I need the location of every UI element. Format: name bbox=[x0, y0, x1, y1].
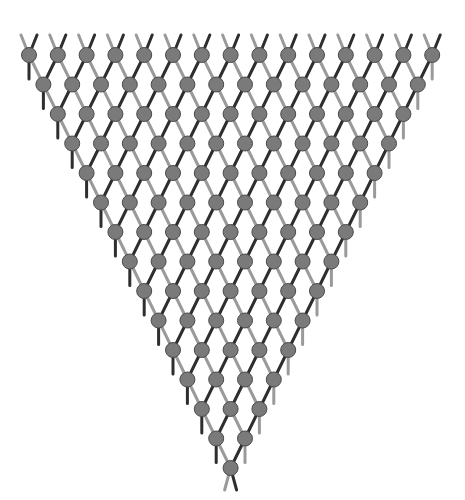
lattice-node bbox=[281, 48, 296, 63]
lattice-node bbox=[281, 166, 296, 181]
lattice-node bbox=[310, 225, 325, 240]
lattice-node bbox=[252, 107, 267, 122]
lattice-node bbox=[310, 107, 325, 122]
node-layer bbox=[22, 48, 440, 476]
lattice-node bbox=[122, 136, 137, 151]
lattice-node bbox=[209, 372, 224, 387]
lattice-node bbox=[65, 77, 80, 92]
lattice-node bbox=[252, 48, 267, 63]
lattice-node bbox=[223, 225, 238, 240]
lattice-node bbox=[137, 225, 152, 240]
lattice-node bbox=[281, 284, 296, 299]
lattice-node bbox=[338, 166, 353, 181]
lattice-node bbox=[137, 107, 152, 122]
lattice-node bbox=[382, 136, 397, 151]
lattice-node bbox=[151, 313, 166, 328]
lattice-node bbox=[367, 48, 382, 63]
lattice-node bbox=[252, 402, 267, 417]
lattice-node bbox=[180, 372, 195, 387]
lattice-node bbox=[22, 48, 37, 63]
lattice-node bbox=[180, 254, 195, 269]
lattice-node bbox=[166, 48, 181, 63]
lattice-node bbox=[266, 313, 281, 328]
lattice-node bbox=[295, 77, 310, 92]
lattice-node bbox=[180, 195, 195, 210]
lattice-node bbox=[166, 225, 181, 240]
lattice-node bbox=[194, 107, 209, 122]
lattice-node bbox=[338, 225, 353, 240]
lattice-node bbox=[223, 461, 238, 476]
lattice-node bbox=[367, 107, 382, 122]
lattice-node bbox=[137, 48, 152, 63]
lattice-node bbox=[122, 77, 137, 92]
lattice-node bbox=[252, 225, 267, 240]
lattice-node bbox=[166, 107, 181, 122]
lattice-node bbox=[209, 431, 224, 446]
lattice-node bbox=[122, 254, 137, 269]
lattice-node bbox=[166, 343, 181, 358]
lattice-node bbox=[367, 166, 382, 181]
lattice-node bbox=[50, 48, 65, 63]
lattice-node bbox=[166, 166, 181, 181]
lattice-node bbox=[266, 136, 281, 151]
lattice-node bbox=[382, 77, 397, 92]
lattice-node bbox=[238, 313, 253, 328]
lattice-node bbox=[223, 107, 238, 122]
lattice-node bbox=[324, 195, 339, 210]
lattice-node bbox=[209, 136, 224, 151]
lattice-node bbox=[353, 195, 368, 210]
lattice-node bbox=[252, 166, 267, 181]
lattice-node bbox=[310, 48, 325, 63]
lattice-node bbox=[338, 48, 353, 63]
lattice-canvas bbox=[0, 0, 465, 500]
lattice-node bbox=[223, 284, 238, 299]
lattice-node bbox=[410, 77, 425, 92]
lattice-node bbox=[295, 254, 310, 269]
lattice-node bbox=[151, 77, 166, 92]
lattice-node bbox=[338, 107, 353, 122]
lattice-node bbox=[209, 77, 224, 92]
lattice-node bbox=[194, 343, 209, 358]
lattice-node bbox=[324, 136, 339, 151]
lattice-node bbox=[194, 48, 209, 63]
lattice-node bbox=[238, 372, 253, 387]
lattice-node bbox=[79, 166, 94, 181]
lattice-node bbox=[194, 402, 209, 417]
lattice-node bbox=[151, 136, 166, 151]
lattice-node bbox=[137, 166, 152, 181]
lattice-node bbox=[295, 313, 310, 328]
lattice-node bbox=[94, 136, 109, 151]
lattice-node bbox=[252, 343, 267, 358]
lattice-node bbox=[65, 136, 80, 151]
lattice-node bbox=[238, 136, 253, 151]
stub-layer bbox=[21, 35, 440, 490]
lattice-node bbox=[295, 136, 310, 151]
lattice-node bbox=[281, 107, 296, 122]
lattice-node bbox=[353, 136, 368, 151]
lattice-node bbox=[209, 254, 224, 269]
lattice-node bbox=[295, 195, 310, 210]
lattice-node bbox=[79, 48, 94, 63]
lattice-node bbox=[180, 313, 195, 328]
lattice-node bbox=[266, 254, 281, 269]
lattice-node bbox=[252, 284, 267, 299]
lattice-node bbox=[238, 77, 253, 92]
lattice-node bbox=[310, 284, 325, 299]
lattice-node bbox=[108, 166, 123, 181]
lattice-node bbox=[194, 284, 209, 299]
lattice-node bbox=[94, 77, 109, 92]
lattice-node bbox=[151, 254, 166, 269]
lattice-node bbox=[353, 77, 368, 92]
lattice-node bbox=[281, 343, 296, 358]
lattice-node bbox=[137, 284, 152, 299]
lattice-node bbox=[166, 284, 181, 299]
lattice-node bbox=[209, 313, 224, 328]
lattice-node bbox=[238, 195, 253, 210]
lattice-node bbox=[94, 195, 109, 210]
lattice-diagram bbox=[0, 0, 465, 500]
lattice-node bbox=[396, 48, 411, 63]
lattice-node bbox=[194, 166, 209, 181]
lattice-node bbox=[223, 48, 238, 63]
lattice-node bbox=[266, 77, 281, 92]
lattice-node bbox=[324, 254, 339, 269]
